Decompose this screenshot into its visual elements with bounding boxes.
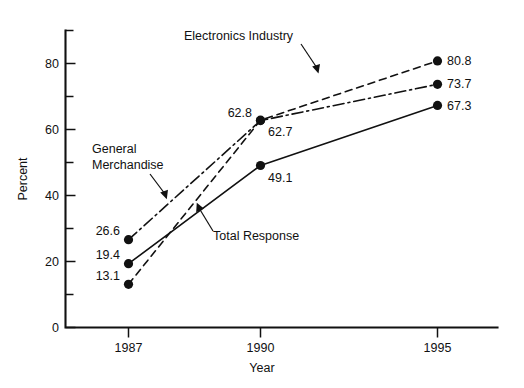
y-tick-label-60: 60 xyxy=(45,123,59,137)
annotation-arrow-head-general xyxy=(160,190,168,199)
annotation-arrow-head-electronics xyxy=(312,64,320,74)
annotation-arrow-line-electronics xyxy=(301,44,317,68)
line-chart-canvas: 0 20 40 60 80 1987 1990 1995 Percent Yea… xyxy=(0,0,524,388)
annotation-label-total-response: Total Response xyxy=(213,229,299,243)
data-point-total-1995 xyxy=(433,101,442,110)
x-tick-label-1995: 1995 xyxy=(424,341,452,355)
data-label-general-1995: 73.7 xyxy=(447,77,471,91)
data-point-electronics-1995 xyxy=(433,56,442,65)
annotation-label-general-merchandise-line1: General xyxy=(92,142,136,156)
data-label-general-1987: 26.6 xyxy=(96,224,120,238)
data-point-electronics-1987 xyxy=(124,280,133,289)
series-line-general-merchandise xyxy=(129,84,438,239)
data-label-total-1990: 49.1 xyxy=(268,171,292,185)
data-label-electronics-1995: 80.8 xyxy=(447,54,471,68)
data-label-total-1995: 67.3 xyxy=(447,99,471,113)
data-point-total-1990 xyxy=(256,161,265,170)
y-tick-label-40: 40 xyxy=(45,189,59,203)
data-point-general-1990 xyxy=(256,116,265,125)
annotation-electronics-industry: Electronics Industry xyxy=(184,29,320,74)
axis-group: 0 20 40 60 80 1987 1990 1995 Percent Yea… xyxy=(16,31,498,376)
data-point-total-1987 xyxy=(124,259,133,268)
annotation-label-electronics-industry: Electronics Industry xyxy=(184,29,294,43)
data-label-electronics-1987: 13.1 xyxy=(96,269,120,283)
data-point-general-1995 xyxy=(433,80,442,89)
data-point-general-1987 xyxy=(124,235,133,244)
y-tick-label-80: 80 xyxy=(45,57,59,71)
x-tick-label-1990: 1990 xyxy=(247,341,275,355)
annotation-label-general-merchandise-line2: Merchandise xyxy=(92,158,164,172)
annotation-arrow-line-general xyxy=(150,174,165,194)
y-axis-title: Percent xyxy=(16,157,30,201)
y-tick-label-20: 20 xyxy=(45,255,59,269)
series-general-merchandise xyxy=(124,80,442,245)
x-tick-label-1987: 1987 xyxy=(115,341,143,355)
annotation-general-merchandise: General Merchandise xyxy=(92,142,168,199)
data-label-electronics-1990: 62.8 xyxy=(228,106,252,120)
chart-figure: 0 20 40 60 80 1987 1990 1995 Percent Yea… xyxy=(0,0,524,388)
data-label-general-1990: 62.7 xyxy=(268,125,292,139)
y-tick-label-0: 0 xyxy=(52,321,59,335)
data-label-total-1987: 19.4 xyxy=(96,248,120,262)
annotation-total-response: Total Response xyxy=(196,203,299,243)
x-axis-title: Year xyxy=(249,361,274,375)
annotation-arrow-line-total xyxy=(199,208,213,231)
